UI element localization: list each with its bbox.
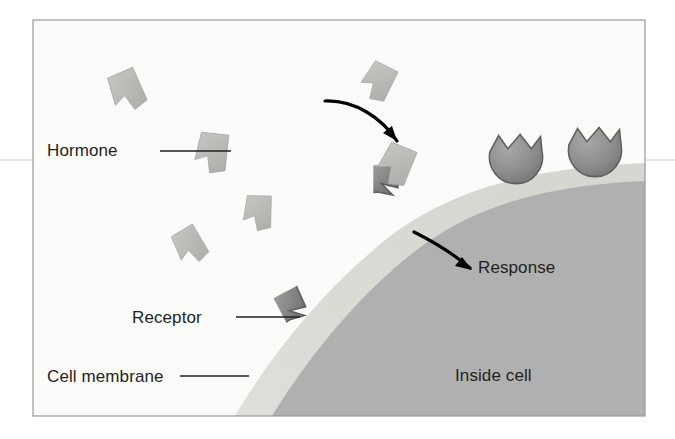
diagram-canvas: HormoneReceptorCell membraneResponseInsi… (0, 0, 675, 439)
label-inside-cell: Inside cell (455, 366, 532, 385)
label-hormone: Hormone (47, 141, 118, 160)
label-cell-membrane: Cell membrane (47, 367, 164, 386)
hormone-receptor-diagram: HormoneReceptorCell membraneResponseInsi… (0, 0, 675, 439)
label-response: Response (478, 258, 555, 277)
label-receptor: Receptor (132, 308, 202, 327)
